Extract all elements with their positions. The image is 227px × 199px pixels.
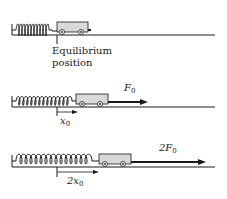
spring-cart-diagram (0, 0, 227, 199)
equilibrium-label-line1: Equilibrium (52, 45, 112, 56)
force-label-2f0: 2F0 (159, 142, 177, 157)
displacement-label-x0: x0 (60, 115, 70, 130)
spring-compressed (12, 24, 57, 36)
panel-force-f0 (12, 94, 215, 116)
panel-equilibrium (12, 22, 215, 44)
spring-stretched (12, 97, 76, 106)
force-label-f0: F0 (124, 82, 135, 97)
spring-stretched-more (12, 154, 99, 164)
panel-force-2f0 (12, 154, 215, 177)
displacement-label-2x0: 2x0 (67, 175, 83, 190)
equilibrium-label-line2: position (52, 57, 92, 68)
